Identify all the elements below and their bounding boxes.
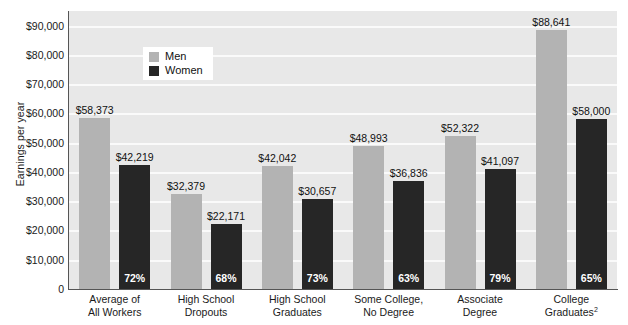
bar-men[interactable]	[536, 30, 567, 289]
x-category-label-line: High School	[252, 293, 343, 306]
gridline	[69, 172, 617, 174]
bar-ratio-label: 73%	[302, 273, 333, 284]
x-category-label-line: Dropouts	[160, 306, 251, 319]
gridline	[69, 230, 617, 232]
bar-value-label: $58,373	[63, 105, 126, 116]
x-category-label-line: Associate	[434, 293, 525, 306]
bar-value-label: $30,657	[286, 186, 349, 197]
legend-swatch-men-icon	[149, 52, 159, 62]
bar-ratio-label: 63%	[393, 273, 424, 284]
x-axis-line	[68, 289, 618, 290]
x-category-label: High SchoolDropouts	[160, 293, 251, 319]
x-category-label: AssociateDegree	[434, 293, 525, 319]
x-category-label: Average ofAll Workers	[69, 293, 160, 319]
y-tick-label: 0	[0, 284, 64, 294]
x-category-label: Some College,No Degree	[343, 293, 434, 319]
footnote-marker: 2	[594, 306, 598, 313]
bar-ratio-label: 68%	[211, 273, 242, 284]
bar-women[interactable]	[576, 119, 607, 289]
bar-value-label: $52,322	[429, 123, 492, 134]
bar-value-label: $88,641	[520, 17, 583, 28]
bar-value-label: $58,000	[560, 106, 623, 117]
bar-value-label: $41,097	[469, 156, 532, 167]
gridline	[69, 201, 617, 203]
y-tick-label: $10,000	[0, 255, 64, 265]
legend-item-men: Men	[149, 51, 203, 62]
x-category-label-line: Graduates	[252, 306, 343, 319]
x-category-label: CollegeGraduates2	[526, 293, 617, 319]
bar-men[interactable]	[262, 166, 293, 289]
gridline	[69, 84, 617, 86]
x-category-label-line: College	[526, 293, 617, 306]
bar-women[interactable]	[119, 165, 150, 289]
gridline	[69, 260, 617, 262]
bar-men[interactable]	[171, 194, 202, 289]
x-category-label-line: All Workers	[69, 306, 160, 319]
bar-ratio-label: 72%	[119, 273, 150, 284]
bar-value-label: $48,993	[337, 133, 400, 144]
x-category-label: High SchoolGraduates	[252, 293, 343, 319]
legend-label-women: Women	[165, 65, 203, 76]
y-tick-label: $30,000	[0, 196, 64, 206]
bar-value-label: $42,042	[246, 153, 309, 164]
x-category-label-line: Degree	[434, 306, 525, 319]
x-category-label-line: Average of	[69, 293, 160, 306]
bar-women[interactable]	[485, 169, 516, 289]
chart-legend: Men Women	[143, 47, 213, 80]
y-tick-label: $40,000	[0, 167, 64, 177]
bar-men[interactable]	[353, 146, 384, 289]
bar-ratio-label: 79%	[485, 273, 516, 284]
bar-ratio-label: 65%	[576, 273, 607, 284]
x-category-label-line: Graduates2	[526, 306, 617, 319]
legend-swatch-women-icon	[149, 66, 159, 76]
x-category-label-line: No Degree	[343, 306, 434, 319]
x-category-label-line: High School	[160, 293, 251, 306]
x-axis-category-labels: Average ofAll WorkersHigh SchoolDropouts…	[69, 293, 617, 325]
y-axis-line	[68, 11, 69, 290]
legend-label-men: Men	[165, 51, 186, 62]
y-tick-label: $20,000	[0, 225, 64, 235]
bar-value-label: $22,171	[195, 211, 258, 222]
y-tick-label: $80,000	[0, 50, 64, 60]
y-tick-label: $90,000	[0, 21, 64, 31]
bar-value-label: $36,836	[377, 168, 440, 179]
gridline	[69, 113, 617, 115]
legend-item-women: Women	[149, 65, 203, 76]
y-tick-label: $50,000	[0, 138, 64, 148]
y-axis-tick-labels: 0$10,000$20,000$30,000$40,000$50,000$60,…	[0, 0, 64, 325]
earnings-bar-chart: Earnings per year 0$10,000$20,000$30,000…	[0, 0, 628, 325]
bar-men[interactable]	[79, 118, 110, 289]
y-tick-label: $60,000	[0, 108, 64, 118]
y-tick-label: $70,000	[0, 79, 64, 89]
bar-value-label: $42,219	[103, 152, 166, 163]
x-category-label-line: Some College,	[343, 293, 434, 306]
bar-value-label: $32,379	[155, 181, 218, 192]
